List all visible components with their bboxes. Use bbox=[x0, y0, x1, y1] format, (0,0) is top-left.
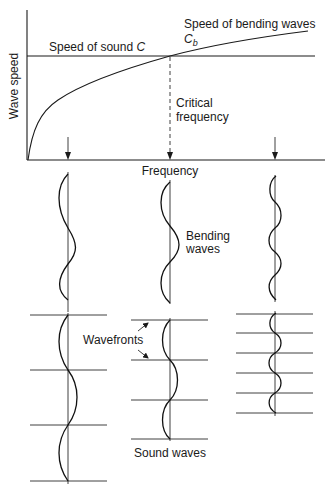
wavefronts-label: Wavefronts bbox=[83, 333, 143, 347]
bending-waves-label-2: waves bbox=[185, 242, 220, 256]
wavefront-arrow-icon bbox=[138, 323, 148, 331]
wave-speed-graph: Wave speed Frequency Speed of sound C Sp… bbox=[7, 10, 325, 178]
critical-frequency-label-1: Critical bbox=[176, 96, 213, 110]
critical-arrow-icon bbox=[167, 152, 173, 160]
bending-speed-symbol: Cb bbox=[184, 32, 198, 48]
bending-wave-middle bbox=[161, 180, 179, 304]
y-axis-label: Wave speed bbox=[7, 53, 21, 119]
x-axis-label: Frequency bbox=[142, 164, 199, 178]
bending-wave-diagram: Wave speed Frequency Speed of sound C Sp… bbox=[0, 0, 330, 494]
critical-frequency-label-2: frequency bbox=[176, 110, 229, 124]
bending-wave-right bbox=[269, 175, 281, 302]
bending-speed-label: Speed of bending waves bbox=[184, 17, 315, 31]
high-freq-arrow-icon bbox=[272, 152, 278, 160]
low-freq-arrow-icon bbox=[65, 152, 71, 160]
bending-wave-left bbox=[59, 172, 76, 312]
wavefront-arrow-icon bbox=[138, 350, 148, 358]
sound-wave-right bbox=[236, 311, 313, 416]
sound-waves-row: Wavefronts Sound waves bbox=[30, 311, 313, 484]
sound-speed-label: Speed of sound C bbox=[49, 40, 145, 54]
sound-waves-label: Sound waves bbox=[134, 446, 206, 460]
bending-waves-label-1: Bending bbox=[186, 229, 230, 243]
bending-waves-row: Bending waves bbox=[59, 172, 281, 312]
